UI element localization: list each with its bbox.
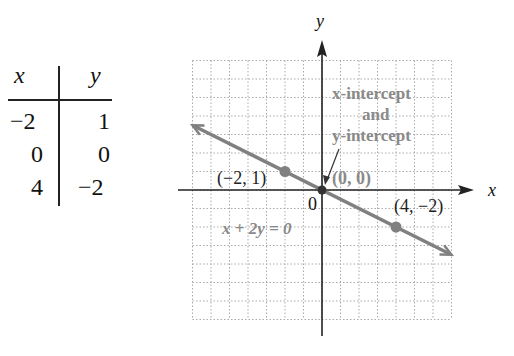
point-label: (4, −2)	[394, 196, 443, 217]
data-point	[391, 222, 402, 233]
annotation-text: y-intercept	[332, 126, 411, 145]
data-point	[318, 186, 327, 195]
equation-label: x + 2y = 0	[221, 219, 292, 238]
x-axis-label: x	[487, 180, 496, 200]
y-axis-label: y	[314, 11, 324, 31]
data-point	[280, 166, 291, 177]
annotation-text: and	[362, 105, 390, 124]
annotation-text: x-intercept	[332, 84, 411, 103]
origin-label: 0	[308, 194, 317, 214]
point-label: (0, 0)	[332, 168, 371, 189]
coordinate-plane: xy0 (−2, 1)(0, 0)(4, −2)x + 2y = 0x-inte…	[0, 0, 514, 356]
point-label: (−2, 1)	[217, 168, 266, 189]
